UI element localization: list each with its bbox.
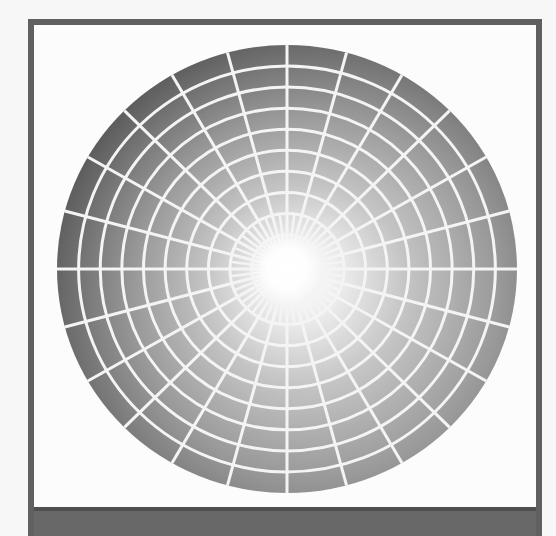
polar-grid-wheel (0, 0, 556, 536)
wheel-center-glow (251, 233, 323, 305)
center-highlight (251, 233, 323, 305)
canvas (0, 0, 556, 536)
